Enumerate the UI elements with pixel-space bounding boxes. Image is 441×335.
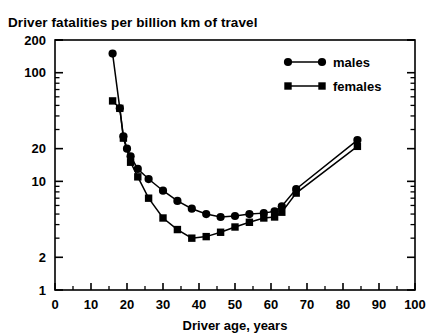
legend-marker-females xyxy=(318,82,325,89)
x-axis-tick-label: 80 xyxy=(336,297,350,312)
x-axis-tick-label: 70 xyxy=(300,297,314,312)
data-point-females xyxy=(127,159,134,166)
data-point-males xyxy=(245,210,253,218)
data-point-females xyxy=(188,234,195,241)
y-axis-tick-label: 1 xyxy=(39,283,46,298)
x-axis-tick-label: 60 xyxy=(264,297,278,312)
data-point-females xyxy=(145,194,152,201)
x-axis-tick-label: 30 xyxy=(156,297,170,312)
legend-label-males: males xyxy=(333,55,370,70)
data-point-females xyxy=(134,173,141,180)
driver-fatalities-line-chart: 1210201002000102030405060708090100Driver… xyxy=(0,0,441,335)
x-axis-tick-label: 40 xyxy=(192,297,206,312)
data-point-females xyxy=(260,214,267,221)
data-point-females xyxy=(278,209,285,216)
chart-figure: Driver fatalities per billion km of trav… xyxy=(0,0,441,335)
data-point-females xyxy=(159,214,166,221)
data-point-females xyxy=(203,233,210,240)
data-point-females xyxy=(354,143,361,150)
series-line-males xyxy=(113,54,358,217)
plot-frame xyxy=(55,40,415,290)
x-axis-tick-label: 100 xyxy=(404,297,426,312)
data-point-females xyxy=(116,105,123,112)
x-axis-tick-label: 90 xyxy=(372,297,386,312)
data-point-males xyxy=(202,210,210,218)
legend-marker-males xyxy=(284,58,292,66)
data-point-females xyxy=(120,134,127,141)
data-point-females xyxy=(271,213,278,220)
x-axis-title: Driver age, years xyxy=(183,318,288,333)
data-point-males xyxy=(173,197,181,205)
legend-label-females: females xyxy=(333,79,381,94)
x-axis-tick-label: 50 xyxy=(228,297,242,312)
x-axis-tick-label: 0 xyxy=(51,297,58,312)
x-axis-tick-label: 10 xyxy=(84,297,98,312)
data-point-females xyxy=(174,226,181,233)
data-point-females xyxy=(231,223,238,230)
y-axis-tick-label: 10 xyxy=(32,174,46,189)
data-point-males xyxy=(188,205,196,213)
legend-marker-males xyxy=(318,58,326,66)
data-point-females xyxy=(109,97,116,104)
data-point-females xyxy=(246,219,253,226)
legend-marker-females xyxy=(284,82,291,89)
x-axis-tick-label: 20 xyxy=(120,297,134,312)
data-point-males xyxy=(145,175,153,183)
y-axis-tick-label: 20 xyxy=(32,141,46,156)
data-point-males xyxy=(109,49,117,57)
data-point-males xyxy=(217,213,225,221)
data-point-males xyxy=(159,187,167,195)
data-point-females xyxy=(217,229,224,236)
data-point-females xyxy=(293,189,300,196)
y-axis-tick-label: 2 xyxy=(39,250,46,265)
data-point-males xyxy=(231,212,239,220)
y-axis-tick-label: 200 xyxy=(24,33,46,48)
y-axis-tick-label: 100 xyxy=(24,65,46,80)
